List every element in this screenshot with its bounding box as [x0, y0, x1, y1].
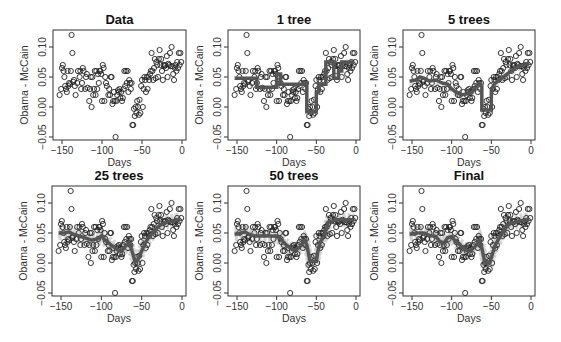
poll-point — [68, 188, 73, 193]
poll-point — [57, 92, 62, 97]
poll-point — [451, 221, 456, 226]
poll-point — [88, 260, 93, 265]
poll-point — [69, 32, 74, 37]
x-tick-label: 0 — [528, 301, 534, 312]
poll-point — [261, 98, 266, 103]
poll-point — [244, 188, 249, 193]
poll-point — [331, 47, 336, 52]
poll-point — [60, 62, 65, 67]
ensemble-band — [410, 67, 530, 113]
poll-point — [95, 86, 100, 91]
panel-title: 1 tree — [277, 12, 312, 27]
x-tick-label: −100 — [265, 301, 288, 312]
y-axis-label: Obama - McCain — [368, 201, 380, 281]
poll-point — [509, 77, 514, 82]
y-tick-label: 0.05 — [212, 67, 223, 87]
poll-point — [72, 248, 77, 253]
poll-point — [101, 65, 106, 70]
poll-point — [514, 230, 519, 235]
plot-frame — [53, 30, 186, 140]
poll-point — [513, 53, 518, 58]
x-tick-label: −150 — [401, 145, 424, 156]
poll-point — [264, 260, 269, 265]
y-tick-label: −0.05 — [36, 280, 47, 306]
poll-point — [59, 218, 64, 223]
panel-25-trees: 25 trees−150−100−500−0.050.000.050.10Day… — [17, 168, 186, 324]
poll-point — [436, 254, 441, 259]
poll-point — [276, 221, 281, 226]
poll-point — [520, 233, 525, 238]
poll-point — [70, 50, 75, 55]
poll-point — [520, 77, 525, 82]
poll-point — [171, 233, 176, 238]
poll-point — [86, 254, 91, 259]
y-tick-label: −0.05 — [387, 124, 398, 150]
poll-point — [418, 68, 423, 73]
y-tick-label: 0.00 — [212, 253, 223, 273]
x-axis-label: Days — [108, 156, 132, 168]
poll-point — [248, 92, 253, 97]
poll-point — [62, 74, 67, 79]
y-tick-label: 0.00 — [37, 97, 48, 117]
figure-grid: Data−150−100−500−0.050.000.050.10DaysOba… — [0, 0, 561, 342]
poll-point — [167, 50, 172, 55]
y-tick-label: 0.05 — [387, 67, 398, 87]
poll-point — [164, 209, 169, 214]
panel-data: Data−150−100−500−0.050.000.050.10DaysOba… — [18, 12, 186, 168]
poll-point — [517, 50, 522, 55]
poll-point — [244, 32, 249, 37]
poll-point — [288, 290, 293, 295]
poll-point — [235, 62, 240, 67]
poll-point — [338, 53, 343, 58]
poll-point — [410, 218, 415, 223]
poll-point — [439, 260, 444, 265]
poll-point — [506, 203, 511, 208]
poll-point — [160, 233, 165, 238]
poll-point — [171, 227, 176, 232]
y-tick-label: 0.10 — [212, 37, 223, 57]
y-tick-label: 0.00 — [387, 253, 398, 273]
poll-point — [463, 134, 468, 139]
x-axis-label: Days — [457, 156, 481, 168]
x-tick-label: −50 — [308, 301, 325, 312]
poll-point — [232, 248, 237, 253]
poll-point — [420, 206, 425, 211]
poll-point — [498, 50, 503, 55]
poll-point — [334, 233, 339, 238]
poll-point — [276, 65, 281, 70]
poll-point — [419, 32, 424, 37]
y-axis-label: Obama - McCain — [368, 45, 380, 125]
poll-point — [165, 230, 170, 235]
x-tick-label: −150 — [401, 301, 424, 312]
poll-point — [171, 71, 176, 76]
x-tick-label: −150 — [226, 301, 249, 312]
poll-point — [338, 209, 343, 214]
y-tick-label: 0.00 — [387, 97, 398, 117]
x-axis-label: Days — [282, 312, 306, 324]
poll-point — [269, 242, 274, 247]
poll-point — [431, 68, 436, 73]
x-tick-label: −50 — [308, 145, 325, 156]
poll-point — [506, 47, 511, 52]
x-tick-label: −50 — [133, 301, 150, 312]
poll-point — [81, 68, 86, 73]
poll-point — [256, 224, 261, 229]
poll-point — [513, 209, 518, 214]
y-tick-label: 0.05 — [37, 67, 48, 87]
poll-point — [339, 230, 344, 235]
poll-point — [245, 206, 250, 211]
poll-point — [517, 206, 522, 211]
poll-point — [342, 206, 347, 211]
poll-point — [96, 80, 101, 85]
panel-title: 25 trees — [94, 168, 143, 183]
x-tick-label: −100 — [440, 145, 463, 156]
poll-point — [514, 74, 519, 79]
x-tick-label: −150 — [226, 145, 249, 156]
x-tick-label: −100 — [265, 145, 288, 156]
poll-point — [89, 104, 94, 109]
poll-point — [451, 65, 456, 70]
poll-point — [518, 44, 523, 49]
poll-point — [520, 71, 525, 76]
poll-point — [414, 245, 419, 250]
poll-point — [157, 203, 162, 208]
